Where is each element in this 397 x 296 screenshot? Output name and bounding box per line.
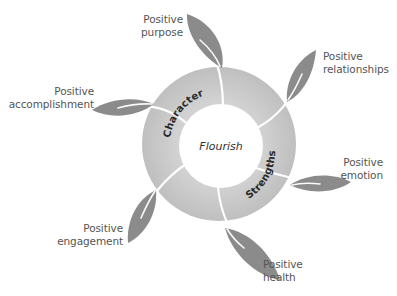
outcome-purpose-label: Positive purpose	[120, 13, 183, 38]
label-line: Positive	[323, 50, 389, 63]
flourish-diagram: Character Strengths Flourish	[0, 0, 397, 296]
label-line: relationships	[323, 63, 389, 76]
label-line: Positive	[320, 156, 383, 169]
label-line: Positive	[0, 85, 94, 98]
outcome-engagement-label: Positive engagement	[50, 222, 123, 247]
label-line: Positive	[50, 222, 123, 235]
outcome-emotion-label: Positive emotion	[320, 156, 383, 181]
outcome-relationships-label: Positive relationships	[323, 50, 389, 75]
label-line: purpose	[120, 26, 183, 39]
label-line: health	[263, 271, 303, 284]
label-line: Positive	[120, 13, 183, 26]
label-line: accomplishment	[0, 98, 94, 111]
flourish-label: Flourish	[199, 140, 242, 153]
label-line: emotion	[320, 169, 383, 182]
label-line: engagement	[50, 235, 123, 248]
label-line: Positive	[263, 258, 303, 271]
outcome-accomplishment-label: Positive accomplishment	[0, 85, 94, 110]
outcome-health-label: Positive health	[263, 258, 303, 283]
